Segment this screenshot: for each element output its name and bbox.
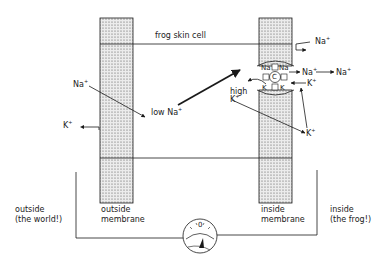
outside-world-label: outside(the world!) (15, 205, 62, 225)
inside-membrane-label: insidemembrane (261, 205, 305, 225)
k-lower-label: K+ (306, 129, 315, 139)
k-efflux-head (80, 125, 84, 129)
pump-na-left: Na (261, 64, 271, 72)
na-far-right-label: Na+ (336, 68, 351, 78)
high-k-label-2: K+ (230, 95, 239, 105)
outside-membrane-label: outsidemembrane (101, 205, 145, 225)
pump-na-right: Na (279, 64, 289, 72)
na-outside-label: Na+ (73, 80, 88, 90)
k-pump-in-label: K+ (307, 79, 316, 89)
cell-boundary (133, 44, 259, 158)
k-recycle-arrow (301, 88, 307, 128)
cell-label: frog skin cell (155, 31, 206, 41)
pump-center: C (272, 73, 277, 81)
pump-k-right: K (280, 84, 285, 92)
meter-zero-label: 0 (198, 221, 202, 229)
inside-frog-label: inside(the frog!) (330, 205, 371, 225)
na-top-right-label: Na+ (315, 37, 330, 47)
inside-membrane (257, 18, 294, 203)
low-na-label: low Na+ (151, 108, 182, 118)
outside-membrane (100, 18, 133, 203)
k-outside-label: K+ (63, 121, 72, 131)
pump-k-left: K (262, 84, 267, 92)
na-top-hook-arrow (296, 42, 310, 50)
